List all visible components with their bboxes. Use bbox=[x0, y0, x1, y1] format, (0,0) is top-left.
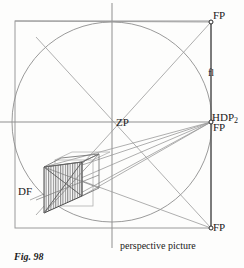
perspective-construction-drawing bbox=[0, 0, 244, 268]
ray-hdp2-to-cube-bottom-right bbox=[82, 122, 211, 196]
label-fp-bottom: FP bbox=[213, 222, 225, 233]
figure-number: Fig. 98 bbox=[14, 252, 43, 262]
label-zp: ZP bbox=[116, 117, 129, 128]
caption-perspective-picture: perspective picture bbox=[120, 241, 196, 251]
label-hdp2-subscript: 2 bbox=[234, 116, 238, 125]
cube-ghost-edge-tl bbox=[55, 152, 72, 160]
label-df: DF bbox=[18, 186, 32, 197]
label-fp-top: FP bbox=[213, 10, 225, 21]
figure-98-root: FP fl HDP2 FP FP ZP DF perspective pictu… bbox=[0, 0, 244, 268]
label-focal-length: fl bbox=[208, 68, 214, 78]
label-fp-mid: FP bbox=[213, 122, 225, 133]
